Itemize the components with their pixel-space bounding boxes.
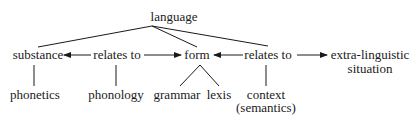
edge-language-form	[152, 26, 197, 47]
node-semantics: (semantics)	[236, 100, 296, 115]
edge-language-substance	[38, 26, 152, 47]
node-situation: situation	[348, 61, 393, 76]
node-lexis: lexis	[207, 87, 232, 102]
edge-language-relates-right	[152, 26, 268, 46]
node-language: language	[151, 9, 198, 24]
node-extra-linguistic: extra-linguistic	[331, 47, 410, 62]
node-relates-to-left: relates to	[93, 47, 140, 62]
node-phonology: phonology	[88, 87, 144, 102]
language-diagram: language substance relates to form relat…	[0, 0, 415, 118]
node-phonetics: phonetics	[10, 87, 60, 102]
node-form: form	[184, 47, 209, 62]
node-relates-to-right: relates to	[244, 47, 291, 62]
edge-form-grammar	[180, 65, 200, 86]
edge-form-lexis	[200, 65, 219, 86]
diagram-canvas: language substance relates to form relat…	[0, 0, 415, 118]
node-grammar: grammar	[154, 87, 202, 102]
node-substance: substance	[13, 47, 64, 62]
